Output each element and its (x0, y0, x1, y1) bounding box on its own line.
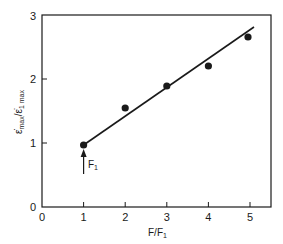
x-tick-0: 0 (39, 211, 45, 223)
data-point (163, 82, 170, 89)
x-tick-1: 1 (81, 211, 87, 223)
x-tick-2: 2 (122, 211, 128, 223)
x-tick-4: 4 (205, 211, 211, 223)
chart: 0 1 2 3 4 5 F/F1 0 1 2 3 ε̇max/ε̇1 max F… (0, 0, 283, 244)
y-tick-1: 1 (30, 137, 36, 149)
f1-annotation: F1 (81, 149, 99, 174)
y-tick-0: 0 (30, 201, 36, 213)
plot-frame (42, 15, 271, 207)
data-point (205, 62, 212, 69)
data-points (80, 33, 252, 148)
y-tick-3: 3 (30, 10, 36, 22)
data-point (80, 141, 87, 148)
f1-label: F1 (88, 159, 98, 171)
y-axis-label: ε̇max/ε̇1 max (13, 89, 25, 134)
x-tick-5: 5 (247, 211, 253, 223)
data-point (244, 33, 251, 40)
y-tick-2: 2 (30, 73, 36, 85)
x-tick-3: 3 (164, 211, 170, 223)
x-axis-label: F/F1 (148, 227, 167, 239)
data-point (122, 104, 129, 111)
